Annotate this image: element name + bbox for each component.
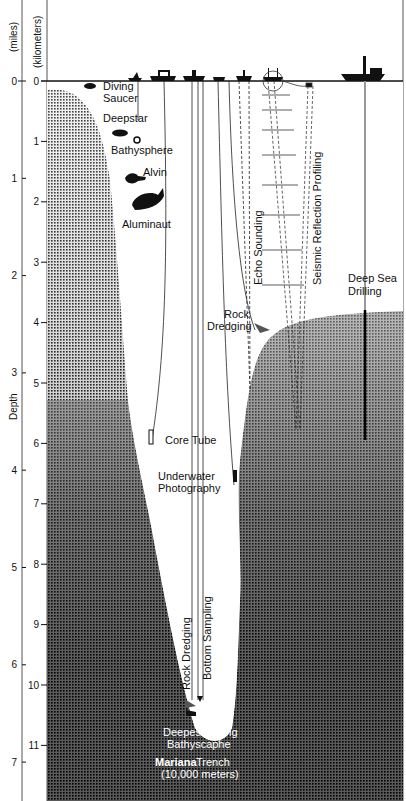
label-rock-dredging-2: Dredging — [207, 320, 252, 332]
camera-icon — [233, 470, 237, 482]
km-tick-label: 0 — [33, 76, 39, 87]
mile-tick-label: 5 — [11, 562, 17, 573]
mile-tick-label: 0 — [11, 76, 17, 87]
mile-tick-label: 3 — [11, 367, 17, 378]
ships — [128, 56, 385, 81]
label-alvin: Alvin — [143, 166, 167, 178]
label-mariana-depth: (10,000 meters) — [161, 768, 239, 780]
label-bottom-sampling: Bottom Sampling — [201, 596, 213, 680]
km-tick-label: 11 — [29, 740, 40, 751]
km-tick-label: 3 — [33, 257, 39, 268]
label-bathysphere: Bathysphere — [111, 144, 173, 156]
km-tick-label: 9 — [33, 619, 39, 630]
mile-tick-label: 4 — [11, 465, 17, 476]
km-axis-label: (kilometers) — [32, 16, 43, 68]
label-deep-sea-drilling: Deep Sea — [348, 272, 398, 284]
miles-axis-label: (miles) — [8, 22, 19, 52]
depth-axis-label: Depth — [8, 393, 19, 420]
km-ticks: 01234567891011 — [28, 76, 47, 751]
km-tick-label: 4 — [33, 317, 39, 328]
label-diving-saucer: Diving — [103, 80, 134, 92]
label-deepstar: Deepstar — [103, 112, 148, 124]
mile-tick-label: 2 — [11, 270, 17, 281]
ship-icon — [236, 70, 252, 81]
km-tick-label: 6 — [33, 438, 39, 449]
label-seismic-reflection: Seismic Reflection Profiling — [311, 152, 323, 285]
km-tick-label: 7 — [33, 498, 39, 509]
km-tick-label: 2 — [33, 196, 39, 207]
sea-floor — [47, 81, 403, 801]
label-echo-sounding: Echo Sounding — [252, 210, 264, 285]
label-underwater-photography: Underwater — [158, 470, 215, 482]
label-aluminaut: Aluminaut — [122, 218, 171, 230]
label-core-tube: Core Tube — [165, 434, 216, 446]
mile-tick-label: 6 — [11, 659, 17, 670]
km-tick-label: 1 — [33, 136, 39, 147]
deepstar-icon — [112, 130, 128, 137]
label-deep-sea-drilling-2: Drilling — [348, 285, 382, 297]
ship-icon — [150, 70, 176, 81]
drilling-ship-icon — [341, 56, 385, 81]
label-mariana-trench-2: Trench — [196, 756, 230, 768]
label-bathyscaphe-2: Bathyscaphe — [167, 738, 231, 750]
label-rock-dredging-deep: Rock Dredging — [180, 617, 192, 690]
diving-saucer-icon — [84, 83, 96, 89]
mile-tick-label: 1 — [11, 173, 17, 184]
mile-ticks: 01234567 — [11, 76, 26, 768]
label-diving-saucer-2: Saucer — [103, 92, 138, 104]
ocean-exploration-diagram: 01234567891011 01234567 (miles) (kilomet… — [0, 0, 406, 801]
ship-icon — [263, 68, 283, 81]
label-mariana-trench: Mariana — [155, 756, 197, 768]
label-rock-dredging: Rock — [224, 308, 250, 320]
label-underwater-photography-2: Photography — [158, 482, 221, 494]
ship-icon — [183, 70, 205, 81]
km-tick-label: 10 — [28, 680, 40, 691]
mile-tick-label: 7 — [11, 757, 17, 768]
core-tube-icon — [149, 430, 153, 444]
km-tick-label: 8 — [33, 559, 39, 570]
km-tick-label: 5 — [33, 378, 39, 389]
ship-icon — [213, 77, 225, 81]
label-bathyscaphe: Deepest Diving — [163, 726, 238, 738]
